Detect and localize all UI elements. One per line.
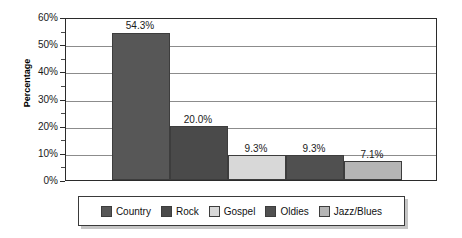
y-tick-label: 0% xyxy=(18,176,58,186)
legend-label: Gospel xyxy=(224,206,256,217)
y-tick-label: 40% xyxy=(18,67,58,77)
legend-item: Country xyxy=(101,206,151,217)
legend-item: Rock xyxy=(161,206,199,217)
y-tick-label: 50% xyxy=(18,40,58,50)
bar-value-label: 9.3% xyxy=(285,143,343,154)
bar xyxy=(344,161,402,180)
y-axis-tick-labels: 0%10%20%30%40%50%60% xyxy=(18,0,58,238)
legend-swatch-icon xyxy=(209,206,220,217)
legend-swatch-icon xyxy=(319,206,330,217)
legend-swatch-icon xyxy=(101,206,112,217)
legend-swatch-icon xyxy=(265,206,276,217)
bar xyxy=(228,155,286,180)
legend-item: Gospel xyxy=(209,206,256,217)
legend-item: Oldies xyxy=(265,206,308,217)
legend-label: Oldies xyxy=(280,206,308,217)
bar-value-label: 9.3% xyxy=(227,143,285,154)
bar-value-label: 7.1% xyxy=(343,149,401,160)
bar-value-label: 54.3% xyxy=(111,20,169,31)
bar xyxy=(170,126,228,180)
legend-label: Jazz/Blues xyxy=(334,206,382,217)
bar-value-label: 20.0% xyxy=(169,114,227,125)
y-tick-label: 20% xyxy=(18,122,58,132)
legend-label: Country xyxy=(116,206,151,217)
legend-label: Rock xyxy=(176,206,199,217)
y-tick-major xyxy=(60,181,65,182)
bar xyxy=(286,155,344,180)
y-tick-label: 30% xyxy=(18,95,58,105)
bar-chart: Percentage 0%10%20%30%40%50%60% 54.3%20.… xyxy=(0,0,462,238)
chart-legend: CountryRockGospelOldiesJazz/Blues xyxy=(78,196,405,226)
y-tick-label: 10% xyxy=(18,149,58,159)
y-tick-label: 60% xyxy=(18,13,58,23)
bar xyxy=(112,33,170,181)
legend-item: Jazz/Blues xyxy=(319,206,382,217)
legend-swatch-icon xyxy=(161,206,172,217)
